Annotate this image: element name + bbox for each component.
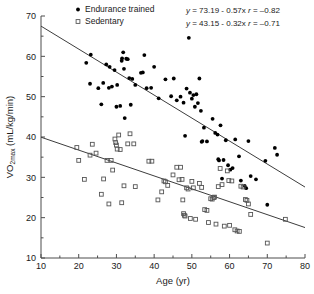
data-point: [249, 213, 253, 217]
data-point: [216, 185, 220, 189]
data-point: [196, 101, 200, 105]
y-tick-label-50: 50: [26, 92, 36, 102]
legend-item-trained: Endurance trained: [76, 4, 155, 14]
data-point: [198, 77, 202, 81]
y-axis-title: VO2max (mL/kg/min): [4, 96, 16, 178]
data-point: [194, 92, 198, 96]
data-point: [120, 56, 124, 60]
regression-line-trained: [41, 26, 305, 187]
data-point: [182, 101, 186, 105]
data-point: [179, 165, 183, 169]
y-tick-label-20: 20: [26, 213, 36, 223]
data-point: [157, 96, 161, 100]
data-point: [187, 36, 191, 40]
data-point: [247, 139, 251, 143]
data-point: [185, 87, 189, 91]
scatter-plot-figure: 1020304050607080Age (yr)10203040506070VO…: [0, 0, 314, 294]
data-point: [122, 184, 126, 188]
data-point: [82, 177, 86, 181]
data-point: [104, 63, 108, 67]
x-tick-label-70: 70: [262, 261, 272, 271]
data-point: [237, 154, 241, 158]
data-point: [117, 133, 121, 137]
data-point: [222, 158, 226, 162]
data-point: [102, 177, 106, 181]
data-point: [164, 77, 168, 81]
data-point: [88, 82, 92, 86]
data-point: [108, 65, 112, 69]
data-point: [228, 223, 232, 227]
data-point: [142, 53, 146, 57]
data-point: [122, 67, 126, 71]
data-point: [216, 133, 220, 137]
data-point: [226, 163, 230, 167]
data-point: [219, 123, 223, 127]
eq-sedentary: y = 43.15 - 0.32x r = –0.71: [185, 19, 280, 28]
data-point: [110, 85, 114, 89]
data-point: [101, 81, 105, 85]
data-point: [115, 83, 119, 87]
data-point: [224, 138, 228, 142]
legend-marker: [76, 20, 80, 24]
data-point: [90, 142, 94, 146]
data-point: [220, 177, 224, 181]
x-tick-label-60: 60: [225, 261, 235, 271]
data-point: [123, 116, 127, 120]
data-point: [211, 117, 215, 121]
data-point: [207, 221, 211, 225]
legend-label: Sedentary: [85, 16, 124, 26]
regression-line-sedentary: [41, 137, 305, 227]
data-point: [188, 217, 192, 221]
data-point: [202, 126, 206, 130]
chart-canvas: 1020304050607080Age (yr)10203040506070VO…: [0, 0, 314, 294]
data-point: [265, 203, 269, 207]
data-point: [181, 198, 185, 202]
data-point: [107, 202, 111, 206]
data-point: [169, 94, 173, 98]
data-point: [264, 159, 268, 163]
data-point: [115, 105, 119, 109]
data-point: [275, 153, 279, 157]
y-tick-label-10: 10: [26, 253, 36, 263]
data-point: [200, 140, 204, 144]
data-point: [84, 61, 88, 65]
data-point: [113, 68, 117, 72]
y-tick-label-70: 70: [26, 11, 36, 21]
data-point: [222, 224, 226, 228]
data-point: [199, 109, 203, 113]
data-point: [156, 198, 160, 202]
data-point: [231, 166, 235, 170]
data-point: [120, 201, 124, 205]
legend-item-sedentary: Sedentary: [76, 16, 124, 26]
data-point: [99, 102, 103, 106]
data-point: [133, 83, 137, 87]
data-point: [96, 86, 100, 90]
data-point: [160, 190, 164, 194]
x-axis-title: Age (yr): [156, 275, 190, 286]
data-point: [214, 222, 218, 226]
data-point: [126, 142, 130, 146]
data-point: [99, 192, 103, 196]
data-point: [145, 86, 149, 90]
data-point: [129, 103, 133, 107]
data-point: [218, 167, 222, 171]
data-point: [89, 53, 93, 57]
data-point: [273, 146, 277, 150]
data-point: [132, 142, 136, 146]
data-point: [133, 185, 137, 189]
data-point: [130, 77, 134, 81]
y-tick-label-40: 40: [26, 132, 36, 142]
series-sedentary: [75, 132, 287, 245]
y-tick-label-60: 60: [26, 52, 36, 62]
data-point: [149, 86, 153, 90]
data-point: [265, 241, 269, 245]
x-tick-label-40: 40: [149, 261, 159, 271]
data-point: [175, 98, 179, 102]
data-point: [179, 95, 183, 99]
legend-label: Endurance trained: [85, 4, 155, 14]
x-tick-label-20: 20: [74, 261, 84, 271]
data-point: [194, 217, 198, 221]
x-tick-label-50: 50: [187, 261, 197, 271]
data-point: [200, 186, 204, 190]
data-point: [183, 134, 187, 138]
